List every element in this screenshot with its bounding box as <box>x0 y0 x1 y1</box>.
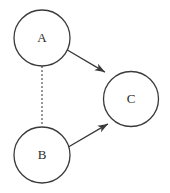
node-b-label: B <box>38 147 47 162</box>
diagram-svg: A C B <box>0 0 170 193</box>
diagram-canvas: A C B <box>0 0 170 193</box>
edge-b-to-c <box>68 124 108 147</box>
node-c-label: C <box>127 91 136 106</box>
node-a[interactable]: A <box>14 10 70 66</box>
edge-a-to-c <box>67 50 105 72</box>
node-b[interactable]: B <box>14 127 70 183</box>
node-a-label: A <box>37 30 47 45</box>
node-c[interactable]: C <box>104 72 159 127</box>
